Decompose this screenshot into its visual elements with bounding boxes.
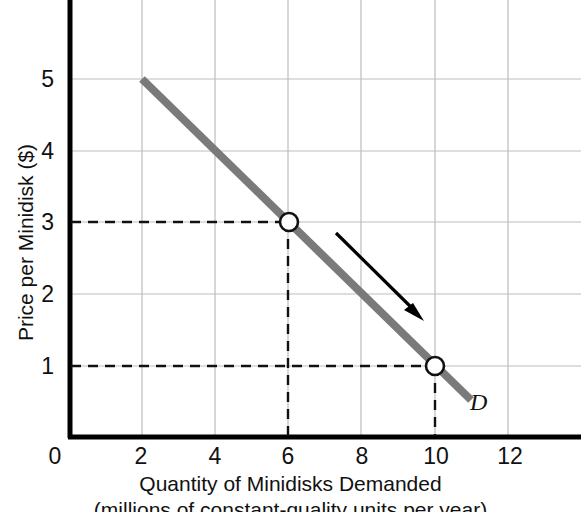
x-axis-title-block: Quantity of Minidisks Demanded (millions…: [0, 471, 581, 512]
x-tick-label-0: 0: [25, 445, 85, 468]
data-point-marker-10-1: [426, 357, 444, 375]
demand-curve-label: D: [470, 390, 487, 414]
guide-lines: [71, 222, 435, 436]
vertical-gridlines: [142, 0, 508, 437]
x-tick-label-2: 2: [111, 445, 171, 468]
y-tick-label-3: 3: [14, 211, 54, 234]
demand-curve-figure: Price per Minidisk ($) 5 4 3 2 1 0 2 4 6…: [0, 0, 581, 512]
x-axis-title: Quantity of Minidisks Demanded: [0, 471, 581, 497]
data-point-marker-6-3: [280, 213, 298, 231]
chart-plot-area: [0, 0, 581, 512]
x-tick-label-6: 6: [258, 445, 318, 468]
x-tick-label-4: 4: [185, 445, 245, 468]
x-tick-label-10: 10: [406, 445, 466, 468]
y-tick-label-5: 5: [14, 68, 54, 91]
x-tick-label-12: 12: [480, 445, 540, 468]
x-tick-label-8: 8: [332, 445, 392, 468]
x-axis-subtitle: (millions of constant-quality units per …: [0, 497, 581, 512]
y-tick-label-4: 4: [14, 140, 54, 163]
y-tick-label-2: 2: [14, 283, 54, 306]
y-tick-label-1: 1: [14, 355, 54, 378]
demand-curve: [142, 79, 471, 400]
